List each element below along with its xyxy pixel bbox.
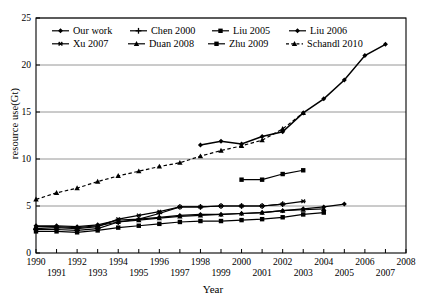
legend-item-liu-2005[interactable]: Liu 2005 [212, 25, 270, 36]
legend-item-schandl-2010[interactable]: Schandl 2010 [286, 38, 363, 49]
data-point-marker [239, 218, 243, 222]
series-line [200, 44, 385, 145]
legend-label: Chen 2000 [151, 25, 195, 36]
x-tick-label: 2008 [396, 256, 415, 267]
data-point-marker [58, 42, 63, 46]
data-point-marker [136, 28, 142, 34]
data-point-marker [116, 225, 120, 229]
data-point-marker [218, 29, 222, 33]
y-tick-label: 25 [21, 12, 31, 23]
legend-label: Duan 2008 [149, 38, 194, 49]
data-point-marker [198, 219, 202, 223]
x-tick-label: 2002 [273, 256, 292, 267]
series-our-work [198, 42, 388, 148]
data-point-marker [301, 168, 305, 172]
data-point-marker [58, 28, 63, 33]
data-point-marker [301, 212, 305, 216]
x-tick-label: 2000 [232, 256, 251, 267]
legend-label: Schandl 2010 [307, 38, 363, 49]
x-tick-label: 1992 [68, 256, 87, 267]
chart-legend: Our workChen 2000Liu 2005Liu 2006Xu 2007… [46, 24, 388, 52]
y-tick-label: 10 [21, 153, 31, 164]
x-tick-label: 2003 [294, 267, 313, 278]
data-point-marker [322, 210, 326, 214]
x-tick-label: 1995 [129, 267, 148, 278]
legend-item-zhu-2009[interactable]: Zhu 2009 [208, 38, 268, 49]
data-point-marker [157, 222, 161, 226]
x-tick-label: 2006 [355, 256, 374, 267]
y-axis-ticks: 0510152025 [21, 12, 40, 258]
legend-label: Xu 2007 [73, 38, 108, 49]
series-line [242, 170, 304, 179]
data-point-marker [198, 142, 203, 147]
x-tick-label: 1997 [170, 267, 189, 278]
data-point-marker [259, 137, 264, 142]
x-tick-label: 1996 [150, 256, 169, 267]
x-tick-label: 1993 [88, 267, 107, 278]
x-tick-label: 1991 [47, 267, 66, 278]
legend-item-xu-2007[interactable]: Xu 2007 [52, 38, 108, 49]
data-point-marker [54, 229, 58, 233]
line-chart: 1990199119921993199419951996199719981999… [0, 0, 426, 305]
data-point-marker [280, 215, 284, 219]
y-tick-label: 0 [26, 247, 31, 258]
y-tick-label: 15 [21, 106, 31, 117]
legend-label: Zhu 2009 [229, 38, 268, 49]
data-point-marker [260, 217, 264, 221]
data-point-marker [75, 230, 79, 234]
x-tick-label: 2004 [314, 256, 333, 267]
legend-label: Liu 2005 [233, 25, 270, 36]
data-point-marker [219, 139, 224, 144]
legend-item-liu-2006[interactable]: Liu 2006 [289, 25, 347, 36]
x-tick-label: 1994 [109, 256, 128, 267]
legend-item-duan-2008[interactable]: Duan 2008 [128, 38, 194, 49]
series-line [36, 113, 303, 199]
x-tick-label: 1999 [211, 267, 230, 278]
x-tick-label: 1998 [191, 256, 210, 267]
y-axis-title: resource use(Gt) [9, 79, 20, 169]
data-point-marker [54, 190, 59, 195]
data-point-marker [214, 42, 218, 46]
legend-label: Liu 2006 [310, 25, 347, 36]
legend-item-our-work[interactable]: Our work [52, 25, 113, 36]
data-point-marker [295, 28, 300, 33]
chart-figure: 1990199119921993199419951996199719981999… [0, 0, 426, 305]
data-point-marker [219, 219, 223, 223]
y-tick-label: 5 [26, 200, 31, 211]
y-tick-label: 20 [21, 59, 31, 70]
data-point-marker [280, 172, 284, 176]
legend-item-chen-2000[interactable]: Chen 2000 [130, 25, 195, 36]
data-point-marker [137, 224, 141, 228]
series-schandl-2010 [33, 110, 306, 201]
series-xu-2007 [34, 200, 306, 231]
x-tick-label: 2001 [253, 267, 272, 278]
legend-label: Our work [73, 25, 113, 36]
axis-frame [36, 18, 406, 253]
data-point-marker [198, 153, 203, 158]
x-tick-label: 2005 [335, 267, 354, 278]
data-point-marker [260, 177, 264, 181]
x-tick-label: 2007 [376, 267, 395, 278]
data-point-marker [34, 229, 38, 233]
series-liu-2005 [239, 168, 305, 182]
plot-border [36, 18, 406, 253]
data-point-marker [95, 228, 99, 232]
data-point-marker [239, 177, 243, 181]
data-point-marker [157, 164, 162, 169]
x-axis-title: Year [0, 283, 426, 295]
data-point-marker [178, 220, 182, 224]
data-point-marker [301, 200, 306, 204]
